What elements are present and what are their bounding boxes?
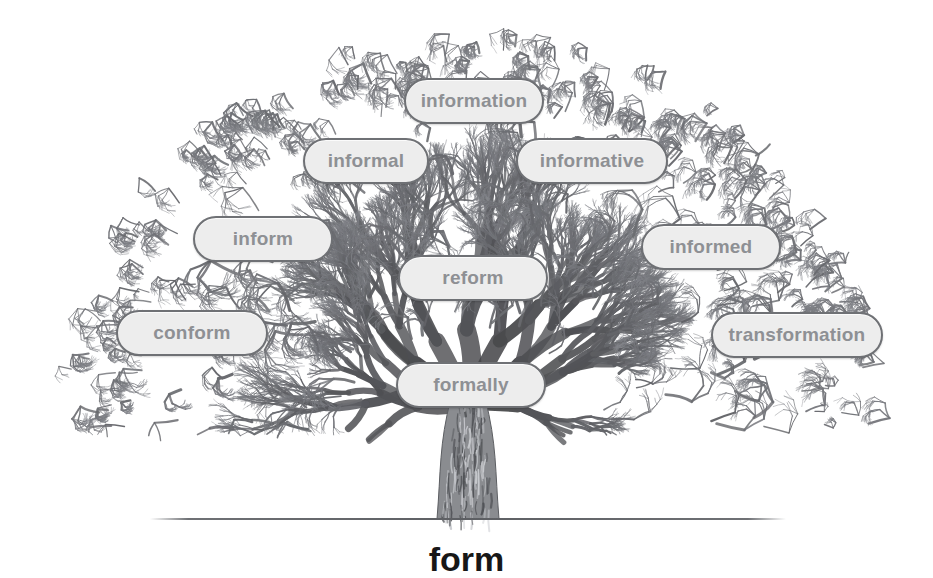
root-word-label: form — [0, 540, 933, 578]
word-pill-inform[interactable]: inform — [193, 216, 333, 262]
word-pill-formally[interactable]: formally — [396, 362, 546, 408]
word-pill-information[interactable]: information — [404, 78, 544, 124]
word-pill-label: conform — [153, 322, 230, 344]
word-tree-diagram: informationinformalinformativeinforminfo… — [0, 0, 933, 578]
ground-line — [150, 518, 786, 520]
word-pill-label: formally — [433, 374, 509, 396]
word-pill-label: reform — [442, 267, 503, 289]
word-pill-reform[interactable]: reform — [398, 255, 548, 301]
word-pill-transformation[interactable]: transformation — [711, 312, 883, 358]
word-pill-conform[interactable]: conform — [116, 310, 268, 356]
word-pill-label: information — [421, 90, 528, 112]
word-pill-informal[interactable]: informal — [303, 138, 429, 184]
word-pill-label: transformation — [729, 324, 866, 346]
word-pill-label: inform — [233, 228, 293, 250]
word-pill-informed[interactable]: informed — [641, 224, 781, 270]
word-pill-label: informed — [670, 236, 753, 258]
word-pill-label: informative — [540, 150, 645, 172]
word-pill-label: informal — [328, 150, 405, 172]
word-pill-informative[interactable]: informative — [516, 138, 668, 184]
